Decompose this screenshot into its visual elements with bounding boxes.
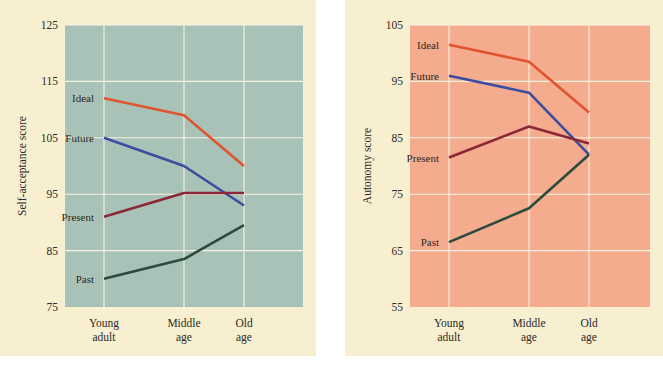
self-acceptance-chart: 758595105115125Self-acceptance scoreYoun… — [0, 0, 316, 356]
y-axis-tick-label: 75 — [392, 188, 404, 200]
autonomy-chart: 5565758595105Autonomy scoreYoungadultMid… — [345, 0, 663, 356]
y-axis-tick-label: 75 — [47, 301, 59, 313]
y-axis-tick-label: 55 — [392, 301, 404, 313]
x-axis-category-label: adult — [93, 331, 117, 343]
plot-area-background — [410, 25, 650, 307]
y-axis-title: Self-acceptance score — [16, 116, 29, 216]
chart-card-autonomy: 5565758595105Autonomy scoreYoungadultMid… — [345, 0, 663, 356]
y-axis-tick-label: 105 — [386, 19, 404, 31]
y-axis-title: Autonomy score — [361, 128, 374, 204]
x-axis-category-label: Old — [580, 317, 598, 329]
y-axis-tick-label: 95 — [47, 188, 59, 200]
y-axis-tick-label: 105 — [41, 132, 59, 144]
series-label-ideal: Ideal — [72, 92, 94, 104]
series-label-ideal: Ideal — [417, 39, 439, 51]
series-label-future: Future — [65, 132, 94, 144]
y-axis-tick-label: 95 — [392, 75, 404, 87]
x-axis-category-label: Middle — [512, 317, 545, 329]
x-axis-category-label: age — [581, 331, 597, 344]
x-axis-category-label: age — [176, 331, 192, 344]
x-axis-category-label: Young — [434, 317, 464, 330]
chart-panels: 758595105115125Self-acceptance scoreYoun… — [0, 0, 663, 373]
x-axis-category-label: Old — [235, 317, 253, 329]
series-label-past: Past — [76, 273, 94, 285]
x-axis-category-label: Young — [89, 317, 119, 330]
y-axis-tick-label: 85 — [392, 132, 404, 144]
x-axis-category-label: Middle — [167, 317, 200, 329]
series-label-future: Future — [410, 70, 439, 82]
y-axis-tick-label: 65 — [392, 245, 404, 257]
chart-card-self-acceptance: 758595105115125Self-acceptance scoreYoun… — [0, 0, 316, 356]
series-label-present: Present — [407, 152, 439, 164]
series-label-past: Past — [421, 236, 439, 248]
y-axis-tick-label: 85 — [47, 245, 59, 257]
series-label-present: Present — [62, 211, 94, 223]
x-axis-category-label: age — [236, 331, 252, 344]
y-axis-tick-label: 115 — [41, 75, 58, 87]
x-axis-category-label: age — [521, 331, 537, 344]
y-axis-tick-label: 125 — [41, 19, 59, 31]
x-axis-category-label: adult — [438, 331, 462, 343]
